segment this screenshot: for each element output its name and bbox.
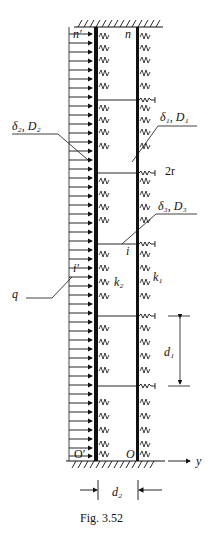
label-O: O <box>126 447 135 461</box>
label-i-prime: i′ <box>73 261 79 275</box>
label-n: n <box>125 27 131 41</box>
distributed-load-arrows <box>69 34 92 456</box>
label-q: q <box>12 287 18 301</box>
label-k1: k₁ <box>153 270 163 284</box>
label-2r: 2r <box>165 164 175 178</box>
label-delta2-D2: δ₂, D₂ <box>12 119 41 133</box>
label-delta3-D3: δ₃, D₃ <box>158 199 187 213</box>
label-O-prime: O′ <box>74 447 86 461</box>
label-k2: k₂ <box>114 275 124 289</box>
label-delta1-D1: δ₁, D₁ <box>160 110 189 124</box>
label-i: i <box>126 244 129 258</box>
label-n-prime: n′ <box>73 27 82 41</box>
label-d1: d₁ <box>164 345 174 359</box>
top-support <box>74 20 163 27</box>
left-wall <box>94 27 98 461</box>
label-y: y <box>195 454 202 468</box>
bottom-support <box>66 461 165 468</box>
label-d2: d₂ <box>112 485 122 499</box>
tie-rods <box>98 97 155 389</box>
beam-diagram: n′ n δ₂, D₂ δ₁, D₁ 2r δ₃, D₃ i i′ q k₂ k… <box>0 0 211 534</box>
figure-caption: Fig. 3.52 <box>80 511 123 525</box>
